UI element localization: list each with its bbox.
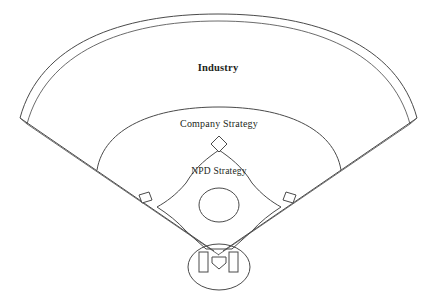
pitchers-mound-circle bbox=[199, 188, 239, 222]
zone-label-company-strategy: Company Strategy bbox=[180, 118, 258, 129]
right-batters-box bbox=[229, 252, 238, 272]
right-foul-corner-cap bbox=[410, 118, 417, 124]
infield-dirt-diamond bbox=[157, 150, 281, 249]
diagram-canvas: Industry Company Strategy NPD Strategy bbox=[0, 0, 437, 301]
left-foul-corner-cap bbox=[20, 118, 27, 124]
zone-label-industry: Industry bbox=[198, 62, 239, 73]
first-base-square bbox=[283, 192, 296, 203]
zone-label-npd-strategy: NPD Strategy bbox=[191, 166, 246, 176]
home-plate-pentagon bbox=[212, 257, 226, 269]
third-base-square bbox=[139, 192, 152, 203]
second-base-diamond bbox=[211, 136, 227, 152]
baseball-field-graphic bbox=[0, 0, 437, 301]
left-batters-box bbox=[199, 252, 208, 272]
